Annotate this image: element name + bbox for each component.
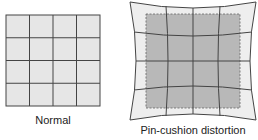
pincushion-grid (130, 2, 256, 120)
normal-grid (6, 15, 100, 106)
normal-caption: Normal (6, 114, 100, 126)
pincushion-caption: Pin-cushion distortion (128, 124, 258, 136)
